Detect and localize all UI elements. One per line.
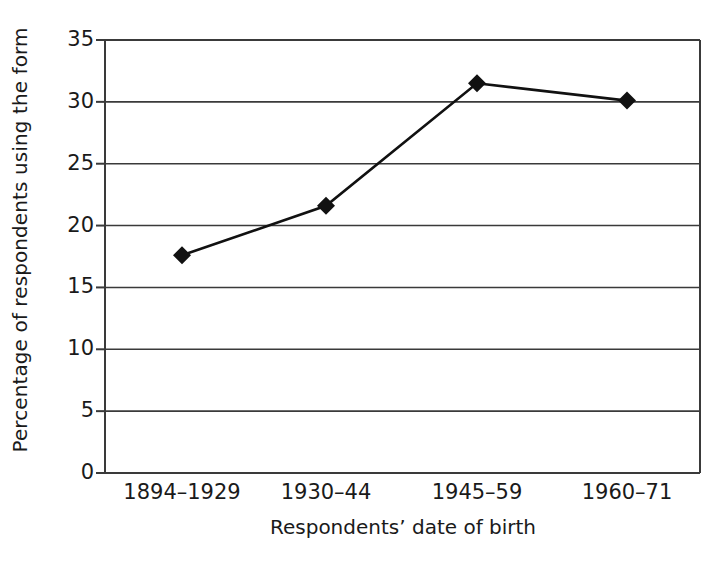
x-axis-tick-label: 1930–44 [281, 481, 372, 503]
x-axis-tick-label: 1945–59 [432, 481, 523, 503]
x-axis-tick-labels: 1894–19291930–441945–591960–71 [0, 0, 727, 571]
x-axis-tick-label: 1960–71 [582, 481, 673, 503]
x-axis-tick-label: 1894–1929 [123, 481, 240, 503]
x-axis-title: Respondents’ date of birth [270, 515, 536, 539]
line-chart: Percentage of respondents using the form… [0, 0, 727, 571]
